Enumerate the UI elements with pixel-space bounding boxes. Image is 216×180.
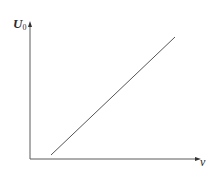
x-axis-label: v [200,156,205,168]
data-line [51,37,175,155]
y-axis-arrow-icon [28,21,32,27]
diagram-canvas [0,0,216,180]
y-axis-label: U0 [13,17,26,32]
